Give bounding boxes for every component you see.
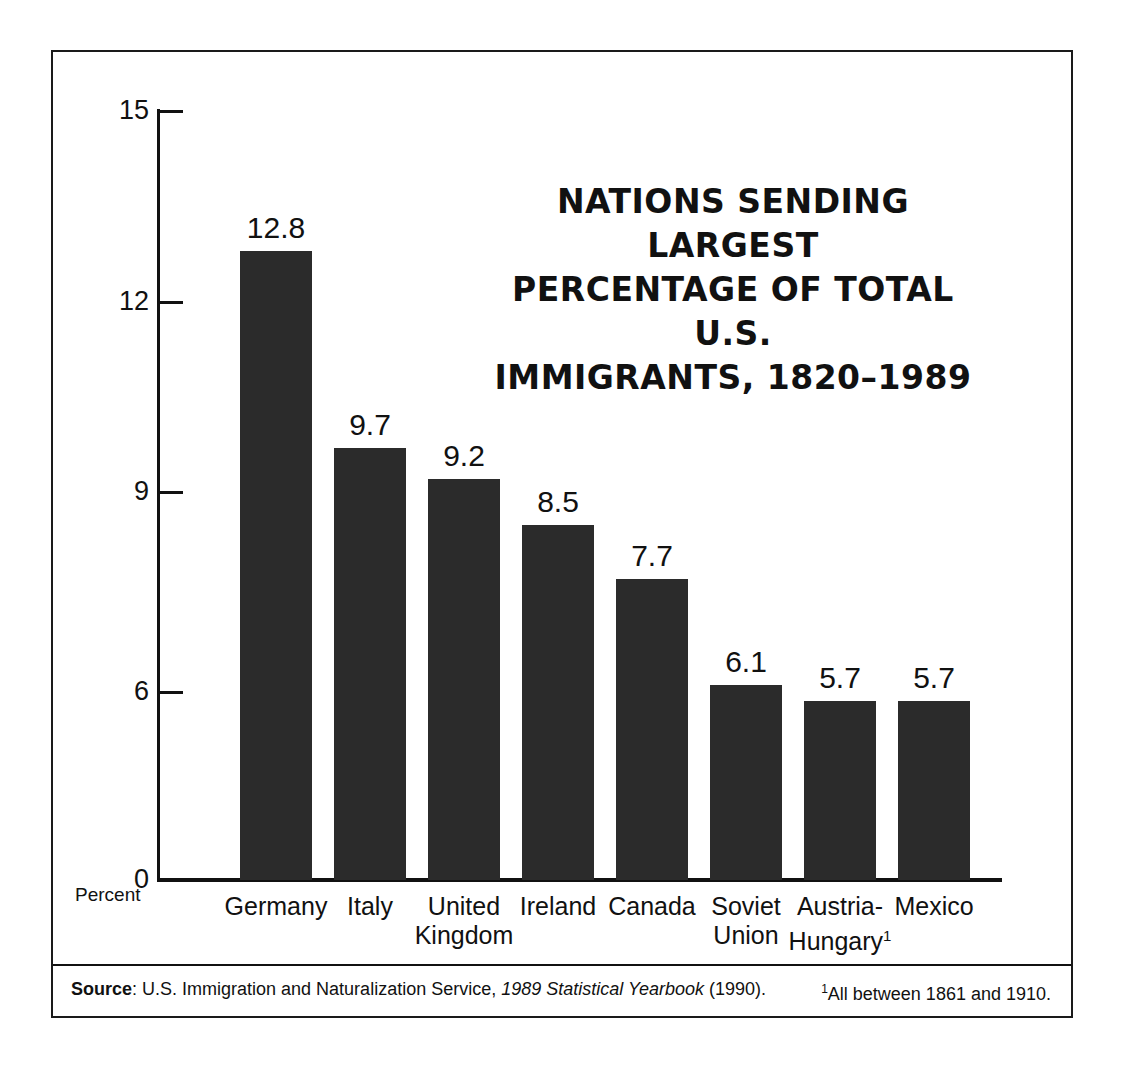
footer-divider — [53, 964, 1071, 966]
bar-value-label-4: 7.7 — [600, 541, 704, 571]
source-note: Source: U.S. Immigration and Naturalizat… — [71, 977, 766, 1001]
plot-area: 1512960 Percent 12.8Germany9.7Italy9.2Un… — [53, 52, 1071, 1016]
bar-value-label-0: 12.8 — [224, 213, 328, 243]
footnote: 1All between 1861 and 1910. — [821, 977, 1051, 1006]
bar-germany — [240, 251, 312, 880]
category-label-line: Mexico — [876, 892, 992, 921]
bar-canada — [616, 579, 688, 880]
bar-value-label-5: 6.1 — [694, 647, 798, 677]
y-tick-label-15: 15 — [53, 97, 149, 124]
y-tick-label-wrap-6: 6 — [53, 678, 149, 705]
y-tick-label-wrap-9: 9 — [53, 478, 149, 505]
bar-austria-hungary — [804, 701, 876, 880]
source-text-2: (1990). — [704, 979, 766, 999]
y-axis-unit-label: Percent — [75, 884, 140, 906]
source-label: Source — [71, 979, 132, 999]
footnote-text: All between 1861 and 1910. — [828, 984, 1051, 1004]
chart-title: NATIONS SENDING LARGESTPERCENTAGE OF TOT… — [473, 180, 993, 400]
bar-mexico — [898, 701, 970, 880]
source-title: 1989 Statistical Yearbook — [501, 979, 704, 999]
y-tick-mark-0 — [157, 879, 183, 882]
chart-page: 1512960 Percent 12.8Germany9.7Italy9.2Un… — [0, 0, 1132, 1078]
bar-italy — [334, 448, 406, 880]
category-label-line: Kingdom — [406, 921, 522, 950]
y-tick-label-wrap-12: 12 — [53, 288, 149, 315]
bar-value-label-6: 5.7 — [788, 663, 892, 693]
y-tick-mark-12 — [157, 301, 183, 304]
y-tick-label-12: 12 — [53, 288, 149, 315]
footnote-marker: 1 — [821, 982, 828, 996]
bar-soviet-union — [710, 685, 782, 880]
bar-united-kingdom — [428, 479, 500, 880]
chart-title-line-2: PERCENTAGE OF TOTAL U.S. — [473, 268, 993, 356]
bar-value-label-7: 5.7 — [882, 663, 986, 693]
chart-title-line-1: NATIONS SENDING LARGEST — [473, 180, 993, 268]
bar-ireland — [522, 525, 594, 880]
chart-title-line-3: IMMIGRANTS, 1820–1989 — [473, 356, 993, 400]
category-label-line: Hungary1 — [782, 921, 898, 956]
source-text-1: : U.S. Immigration and Naturalization Se… — [132, 979, 501, 999]
y-tick-mark-6 — [157, 691, 183, 694]
y-tick-label-6: 6 — [53, 678, 149, 705]
y-axis-line — [157, 109, 160, 881]
bar-value-label-1: 9.7 — [318, 410, 422, 440]
category-label-7: Mexico — [876, 892, 992, 921]
y-tick-label-wrap-15: 15 — [53, 97, 149, 124]
y-tick-label-9: 9 — [53, 478, 149, 505]
bar-value-label-2: 9.2 — [412, 441, 516, 471]
y-tick-mark-15 — [157, 110, 183, 113]
chart-frame: 1512960 Percent 12.8Germany9.7Italy9.2Un… — [51, 50, 1073, 1018]
y-tick-mark-9 — [157, 491, 183, 494]
bar-value-label-3: 8.5 — [506, 487, 610, 517]
